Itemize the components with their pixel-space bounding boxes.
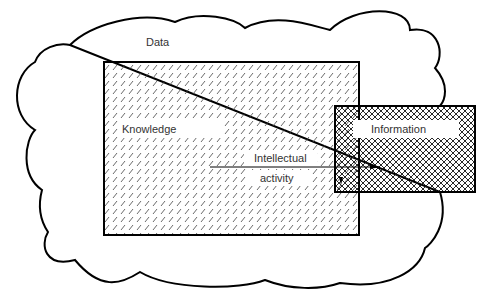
diagram-canvas [0, 0, 486, 296]
knowledge-box [104, 62, 359, 235]
information-label: Information [353, 120, 459, 138]
data-label: Data [146, 35, 169, 49]
information-box [335, 106, 475, 192]
intellectual-label: Intellectual [244, 150, 317, 166]
activity-label: activity [246, 170, 310, 186]
knowledge-label: Knowledge [118, 120, 222, 138]
